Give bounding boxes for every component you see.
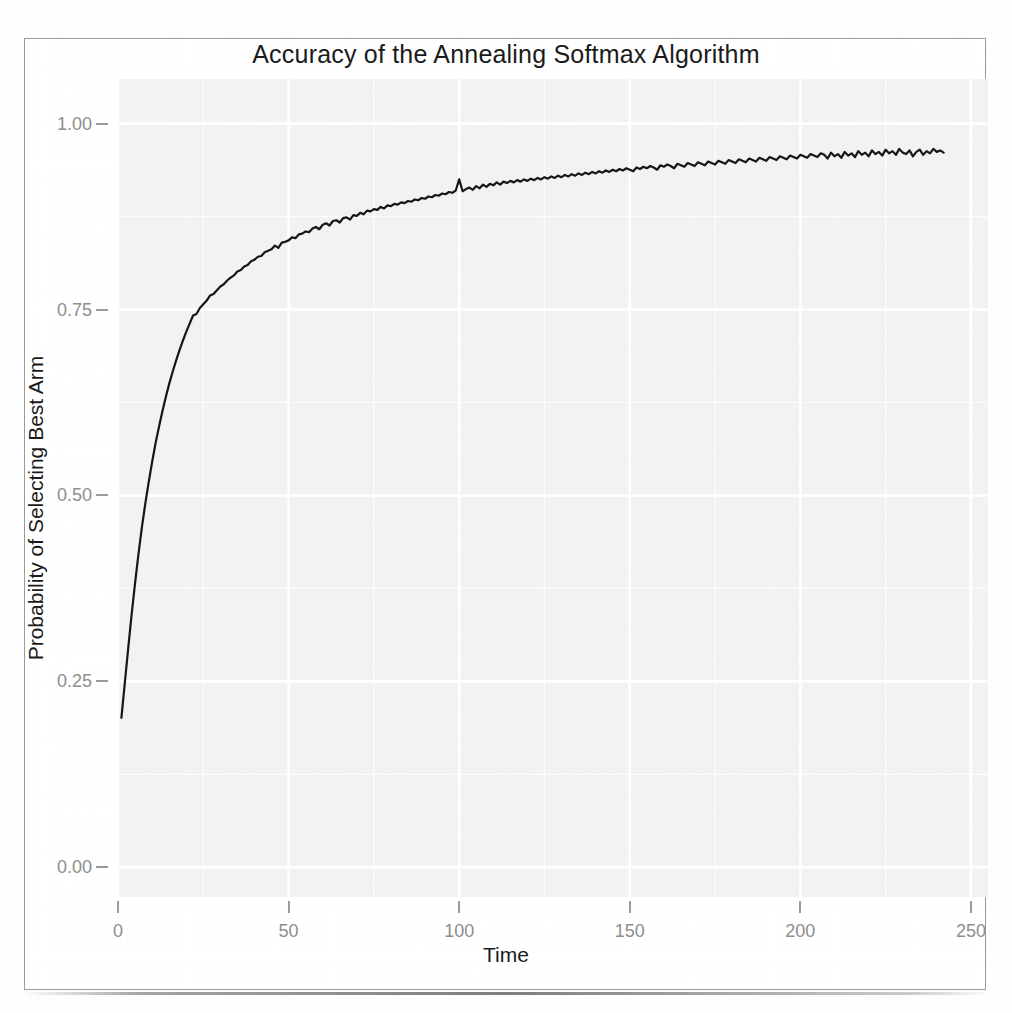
y-tick-mark [96,680,108,682]
y-tick-label: 1.00 [57,113,92,134]
x-tick-mark [288,901,290,913]
y-tick-label: 0.25 [57,671,92,692]
x-tick-label: 200 [785,921,815,942]
x-tick-mark [799,901,801,913]
x-tick-label: 100 [444,921,474,942]
data-line-series [118,79,988,897]
x-tick-mark [458,901,460,913]
y-axis: 0.000.250.500.751.00 [0,0,118,1013]
plot-panel [118,79,988,897]
y-tick-label: 0.50 [57,485,92,506]
y-tick-mark [96,309,108,311]
x-tick-mark [970,901,972,913]
x-tick-label: 150 [615,921,645,942]
y-tick-mark [96,494,108,496]
y-axis-title: Probability of Selecting Best Arm [24,356,48,661]
y-tick-label: 0.00 [57,857,92,878]
chart-title: Accuracy of the Annealing Softmax Algori… [0,40,1012,69]
x-tick-label: 0 [113,921,123,942]
x-tick-mark [117,901,119,913]
x-tick-label: 50 [279,921,299,942]
x-tick-mark [629,901,631,913]
x-axis-title: Time [0,943,1012,967]
x-tick-label: 250 [956,921,986,942]
y-tick-mark [96,123,108,125]
scanned-page: Accuracy of the Annealing Softmax Algori… [0,0,1012,1013]
y-tick-label: 0.75 [57,299,92,320]
y-tick-mark [96,866,108,868]
